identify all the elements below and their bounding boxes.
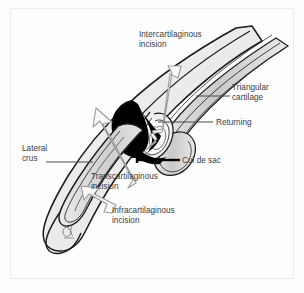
label-infracartilaginous-incision: Infracartilaginous incision bbox=[112, 206, 175, 226]
label-returning: Returning bbox=[216, 118, 252, 128]
label-cul-de-sac: Cul de sac bbox=[182, 156, 221, 166]
label-intercartilaginous-incision: Intercartilaginous incision bbox=[139, 30, 202, 50]
label-triangular-cartilage: Triangular cartilage bbox=[232, 83, 269, 103]
label-transcartilaginous-incision: Transcartilaginous incision bbox=[91, 172, 158, 192]
label-lateral-crus: Lateral crus bbox=[22, 144, 47, 164]
figure-container: Intercartilaginous incision Triangular c… bbox=[0, 0, 304, 293]
